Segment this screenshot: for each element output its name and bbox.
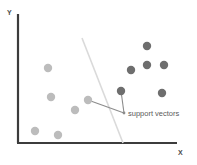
data-point	[44, 64, 52, 72]
y-axis-label: Y	[7, 9, 12, 16]
data-point	[47, 93, 55, 101]
class-a-point-group	[31, 64, 92, 139]
svm-scatter-figure: Y X support vectors	[0, 0, 197, 165]
data-point	[160, 61, 168, 69]
data-point-support-vector	[117, 87, 125, 95]
data-point	[54, 131, 62, 139]
leader-line-left	[88, 100, 124, 113]
leader-junction-dot	[123, 112, 126, 115]
data-point	[158, 89, 166, 97]
data-point	[71, 106, 79, 114]
data-point	[143, 61, 151, 69]
data-point	[143, 42, 151, 50]
data-point	[127, 66, 135, 74]
x-axis-label: X	[178, 149, 183, 156]
data-point	[31, 127, 39, 135]
class-b-point-group	[117, 42, 168, 97]
plot-canvas	[0, 0, 197, 165]
data-point-support-vector	[84, 96, 92, 104]
support-vectors-annotation: support vectors	[128, 110, 179, 118]
